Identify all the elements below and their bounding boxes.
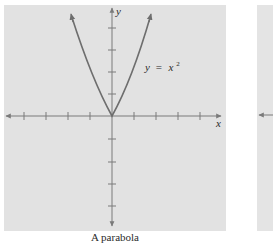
y-axis-label: y [115, 5, 121, 17]
parabola-figure: y x y = x 2 [0, 0, 273, 244]
equation-label: y = x 2 [144, 60, 180, 73]
figure-caption: A parabola [4, 230, 226, 244]
plot-panel [4, 5, 226, 231]
x-axis-label: x [215, 117, 221, 129]
adjacent-plot-panel [257, 5, 273, 231]
